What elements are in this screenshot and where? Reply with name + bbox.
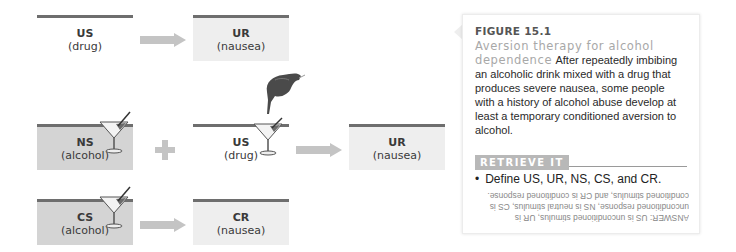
figure-caption-text: After repeatedly imbibing an alcoholic d… (475, 54, 677, 136)
martini-glass-icon (98, 110, 134, 156)
martini-glass-icon (98, 185, 134, 231)
us-label: US (233, 136, 250, 149)
ur-nausea-box-row1: UR (nausea) (193, 15, 289, 61)
retrieve-it-label: RETRIEVE IT (475, 155, 569, 170)
cr-label: CR (233, 211, 250, 224)
cr-desc: (nausea) (217, 224, 266, 237)
figure-number: FIGURE 15.1 (475, 25, 687, 38)
us-desc: (drug) (68, 40, 102, 53)
cr-nausea-box: CR (nausea) (193, 199, 289, 245)
arrow-right-icon (140, 218, 186, 232)
ur-label: UR (388, 136, 405, 149)
figure-caption-panel: FIGURE 15.1 Aversion therapy for alcohol… (462, 14, 700, 234)
bullet-icon: • (475, 172, 479, 186)
ur-nausea-box-row2: UR (nausea) (349, 124, 445, 170)
martini-glass-icon (252, 112, 288, 158)
figure-caption: Aversion therapy for alcohol dependence … (475, 39, 687, 137)
arrow-right-icon (296, 143, 342, 157)
arrow-right-icon (140, 33, 186, 47)
ns-label: NS (76, 136, 93, 149)
plus-icon (155, 140, 175, 160)
retrieve-question: •Define US, UR, NS, CS, and CR. (475, 172, 687, 186)
ur-desc: (nausea) (373, 149, 422, 162)
cs-label: CS (77, 211, 93, 224)
retrieve-it-header: RETRIEVE IT (475, 151, 687, 167)
question-text: Define US, UR, NS, CS, and CR. (485, 172, 661, 186)
us-label: US (77, 27, 94, 40)
ur-label: UR (232, 27, 249, 40)
upside-down-answer: ANSWER: US is unconditioned stimulus, UR… (475, 190, 689, 223)
ur-desc: (nausea) (217, 40, 266, 53)
us-drug-box-row1: US (drug) (37, 15, 133, 61)
